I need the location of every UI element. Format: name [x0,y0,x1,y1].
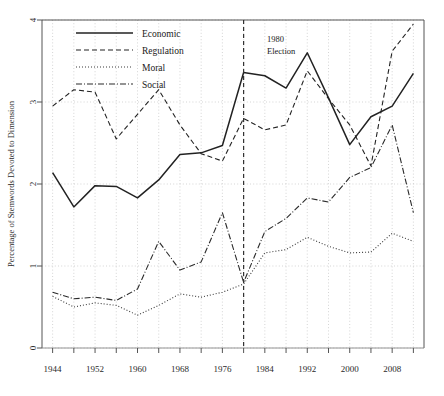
x-tick-label: 1952 [86,364,104,374]
x-tick-label: 1960 [129,364,148,374]
x-tick-label: 1944 [44,364,63,374]
election-annotation-line1: 1980 [267,34,284,44]
x-tick-label: 1968 [171,364,190,374]
line-chart: 01234 1944195219601968197619841992200020… [0,0,444,396]
y-tick-label: 1 [28,264,38,269]
x-tick-label: 1984 [256,364,275,374]
x-axis-ticks: 194419521960196819761984199220002008 [44,348,414,374]
plot-background [42,20,424,348]
legend-label-moral: Moral [142,63,166,73]
y-tick-label: 0 [28,345,38,350]
y-tick-label: 4 [28,17,38,22]
x-tick-label: 1976 [213,364,232,374]
legend-label-social: Social [142,80,166,90]
y-axis-title: Percentage of Stemwords Devoted to Dimen… [6,100,16,267]
chart-figure: 01234 1944195219601968197619841992200020… [0,0,444,396]
x-tick-label: 1992 [298,364,316,374]
x-tick-label: 2000 [341,364,360,374]
y-tick-label: 2 [28,182,38,187]
y-tick-label: 3 [28,99,38,104]
election-annotation-line2: Election [267,46,296,56]
x-tick-label: 2008 [383,364,402,374]
legend-label-economic: Economic [142,29,181,39]
legend-label-regulation: Regulation [142,46,184,56]
y-axis-ticks: 01234 [28,17,42,350]
